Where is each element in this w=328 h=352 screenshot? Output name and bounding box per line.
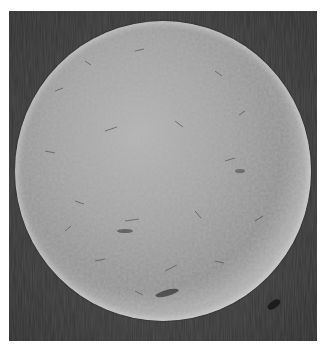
- micrograph-frame: [9, 11, 317, 341]
- sphere-particle: [15, 21, 311, 321]
- sphere-rim-highlight: [15, 21, 311, 321]
